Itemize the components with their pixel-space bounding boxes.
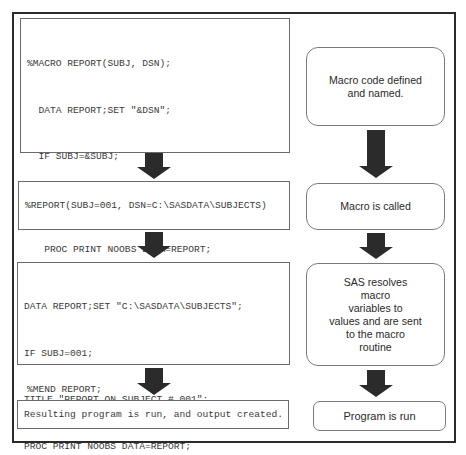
- step-label: Macro code defined and named.: [329, 74, 422, 100]
- arrow-down-icon: [137, 232, 171, 258]
- result-output-box: Resulting program is run, and output cre…: [17, 400, 289, 429]
- arrow-down-icon: [359, 233, 393, 259]
- arrow-down-icon: [359, 370, 393, 397]
- code-line: DATA REPORT;SET "C:\SASDATA\SUBJECTS";: [24, 299, 289, 315]
- resolved-code: DATA REPORT;SET "C:\SASDATA\SUBJECTS"; I…: [17, 262, 290, 365]
- step-program-run: Program is run: [313, 401, 446, 431]
- step-macro-called: Macro is called: [306, 183, 445, 230]
- code-line: %MACRO REPORT(SUBJ, DSN);: [27, 56, 289, 72]
- step-macro-defined: Macro code defined and named.: [306, 47, 445, 126]
- step-label: SAS resolves macro variables to values a…: [329, 276, 421, 354]
- step-sas-resolves: SAS resolves macro variables to values a…: [306, 263, 445, 366]
- code-line: PROC PRINT NOOBS DATA=REPORT;: [24, 439, 289, 455]
- code-line: DATA REPORT;SET "&DSN";: [27, 103, 289, 119]
- macro-call-code: %REPORT(SUBJ=001, DSN=C:\SASDATA\SUBJECT…: [18, 181, 290, 230]
- arrow-down-icon: [137, 368, 171, 395]
- arrow-down-icon: [359, 130, 393, 179]
- result-text: Resulting program is run, and output cre…: [24, 407, 283, 423]
- code-line: %REPORT(SUBJ=001, DSN=C:\SASDATA\SUBJECT…: [25, 198, 267, 214]
- step-label: Program is run: [343, 410, 415, 423]
- macro-definition-code: %MACRO REPORT(SUBJ, DSN); DATA REPORT;SE…: [20, 18, 290, 153]
- step-label: Macro is called: [340, 200, 411, 213]
- code-line: IF SUBJ=001;: [24, 346, 289, 362]
- arrow-down-icon: [137, 153, 171, 179]
